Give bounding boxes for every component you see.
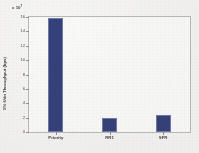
x-axis-tick-label-priority: Priority <box>48 136 63 140</box>
y-axis-tick-label: 6 <box>23 87 25 91</box>
y-axis-tick-label: 4 <box>23 101 25 105</box>
y-axis-tick-mark <box>26 89 29 90</box>
x-axis-tick-label-sfr: SFR <box>159 136 168 140</box>
plot-frame: 0246810121416PriorityRR1SFR <box>28 16 191 133</box>
y-axis-tick-label: 8 <box>23 72 25 76</box>
bar-priority <box>48 18 63 132</box>
y-axis-tick-mark <box>26 103 29 104</box>
plot-area <box>29 17 190 132</box>
y-axis-tick-label: 0 <box>23 130 25 134</box>
y-axis-tick-label: 12 <box>21 44 25 48</box>
y-axis-tick-mark <box>26 118 29 119</box>
y-axis-tick-label: 14 <box>21 29 25 33</box>
y-axis-title: 5% Udn Throughput (bps) <box>1 25 10 142</box>
y-axis-multiplier-exponent: 7 <box>21 4 23 8</box>
y-axis-tick-mark <box>26 31 29 32</box>
y-axis-tick-mark <box>26 75 29 76</box>
bar-rr1 <box>102 118 117 132</box>
y-axis-multiplier-label: x 107 <box>12 5 22 11</box>
y-axis-tick-mark <box>26 60 29 61</box>
y-axis-tick-mark <box>26 17 29 18</box>
y-axis-tick-mark <box>26 132 29 133</box>
y-axis-tick-label: 2 <box>23 116 25 120</box>
y-axis-multiplier-base: x 10 <box>12 5 21 10</box>
bar-sfr <box>156 115 171 132</box>
x-axis-tick-label-rr1: RR1 <box>105 136 114 140</box>
y-axis-tick-label: 10 <box>21 58 25 62</box>
bar-chart-figure: x 107 5% Udn Throughput (bps) 0246810121… <box>0 0 199 153</box>
y-axis-tick-mark <box>26 46 29 47</box>
y-axis-tick-label: 16 <box>21 15 25 19</box>
